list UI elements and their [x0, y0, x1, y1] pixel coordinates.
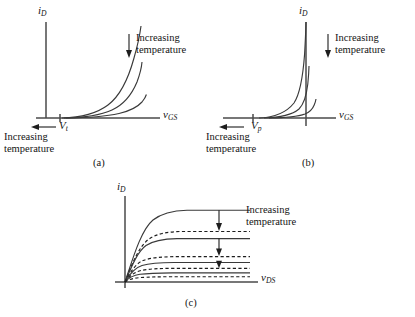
panel-c-annotation-right: Increasing temperature	[246, 204, 296, 229]
panel-b-annotation-right-line2: temperature	[335, 44, 385, 55]
panel-b-curve-high-temp	[259, 22, 306, 118]
panel-a: iD vGS Vt Increasing temperature Increas…	[0, 0, 207, 178]
panel-c-y-axis-label: iD	[117, 180, 126, 192]
panel-c-temp-arrow-3-head	[216, 261, 222, 269]
panel-a-vt-arrow-head	[31, 124, 39, 130]
panel-c-curve-3-dashed	[125, 268, 250, 282]
panel-b-annotation-left-line2: temperature	[206, 143, 256, 154]
panel-c-annotation-right-line1: Increasing	[246, 204, 290, 215]
panel-a-annotation-right-line2: temperature	[136, 44, 186, 55]
panel-c-annotation-right-line2: temperature	[246, 216, 296, 227]
panel-a-temp-arrow-head	[126, 50, 132, 58]
panel-a-y-axis-label: iD	[38, 4, 47, 16]
panel-b: iD vGS Vp Increasing temperature Increas…	[206, 0, 415, 178]
panel-c-plot	[95, 180, 335, 317]
panel-b-y-axis-label: iD	[299, 4, 308, 16]
panel-b-annotation-left-line1: Increasing	[206, 131, 250, 142]
panel-a-annotation-left: Increasing temperature	[4, 131, 54, 156]
panel-a-caption: (a)	[93, 157, 105, 168]
panel-a-annotation-right: Increasing temperature	[136, 32, 186, 57]
panel-a-annotation-right-line1: Increasing	[136, 32, 180, 43]
panel-a-x-axis-label: vGS	[163, 108, 177, 120]
panel-c-curve-1-solid	[125, 210, 250, 282]
panel-c-temp-arrow-2-head	[216, 249, 222, 257]
panel-a-threshold-label: Vt	[59, 119, 68, 131]
panel-a-annotation-left-line2: temperature	[4, 143, 54, 154]
panel-b-annotation-left: Increasing temperature	[206, 131, 256, 156]
panel-b-caption: (b)	[302, 157, 314, 168]
panel-c-x-axis-label: vDS	[261, 271, 275, 283]
panel-b-temp-arrow-head	[325, 50, 331, 58]
panel-c: iD vDS Increasing temperature (c)	[95, 180, 335, 317]
panel-b-threshold-label: Vp	[251, 119, 262, 131]
panel-b-annotation-right-line1: Increasing	[335, 32, 379, 43]
panel-b-x-axis-label: vGS	[339, 108, 353, 120]
panel-c-curve-4-dashed	[125, 277, 250, 282]
panel-a-annotation-left-line1: Increasing	[4, 131, 48, 142]
panel-b-vp-arrow-head	[219, 124, 227, 130]
panel-c-temp-arrow-1-head	[216, 223, 222, 231]
panel-b-annotation-right: Increasing temperature	[335, 32, 385, 57]
panel-c-curve-2-dashed	[125, 257, 250, 282]
panel-c-caption: (c)	[185, 297, 197, 308]
